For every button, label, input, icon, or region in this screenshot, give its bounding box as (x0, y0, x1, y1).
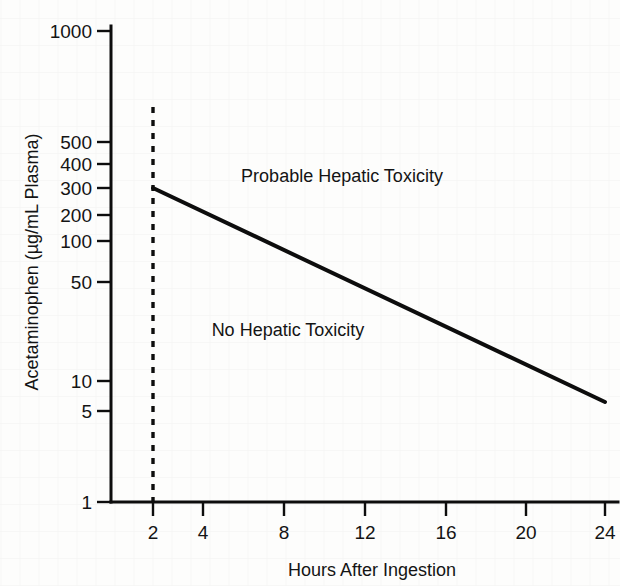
y-axis-title: Acetaminophen (µg/mL Plasma) (22, 134, 42, 391)
y-tick-label: 400 (60, 154, 92, 175)
axis-lines (111, 26, 618, 502)
x-tick-labels: 2 4 8 12 16 20 24 (148, 522, 616, 543)
y-tick-label: 100 (60, 231, 92, 252)
y-tick-label: 500 (60, 132, 92, 153)
x-tick-label: 24 (594, 522, 616, 543)
acetaminophen-nomogram-chart: 1000 500 400 300 200 100 50 10 5 1 2 4 8 (0, 0, 620, 586)
x-tick-label: 20 (515, 522, 536, 543)
no-hepatic-toxicity-label: No Hepatic Toxicity (212, 320, 365, 340)
treatment-nomogram-line (153, 188, 605, 402)
y-tick-label: 10 (71, 371, 92, 392)
x-tick-label: 12 (354, 522, 375, 543)
y-tick-label: 50 (71, 272, 92, 293)
y-tick-marks (97, 31, 111, 502)
y-tick-label: 300 (60, 178, 92, 199)
nomogram-figure: 1000 500 400 300 200 100 50 10 5 1 2 4 8 (0, 0, 620, 586)
x-tick-marks (153, 502, 605, 516)
y-tick-label: 1 (81, 492, 92, 513)
x-tick-label: 8 (279, 522, 290, 543)
y-tick-label: 5 (81, 401, 92, 422)
x-tick-label: 4 (198, 522, 209, 543)
y-tick-label: 200 (60, 205, 92, 226)
y-tick-labels: 1000 500 400 300 200 100 50 10 5 1 (50, 21, 92, 513)
x-axis-title: Hours After Ingestion (288, 560, 456, 580)
x-tick-label: 2 (148, 522, 159, 543)
probable-hepatic-toxicity-label: Probable Hepatic Toxicity (241, 166, 443, 186)
x-tick-label: 16 (435, 522, 456, 543)
region-annotations: Probable Hepatic Toxicity No Hepatic Tox… (212, 166, 443, 340)
y-tick-label: 1000 (50, 21, 92, 42)
